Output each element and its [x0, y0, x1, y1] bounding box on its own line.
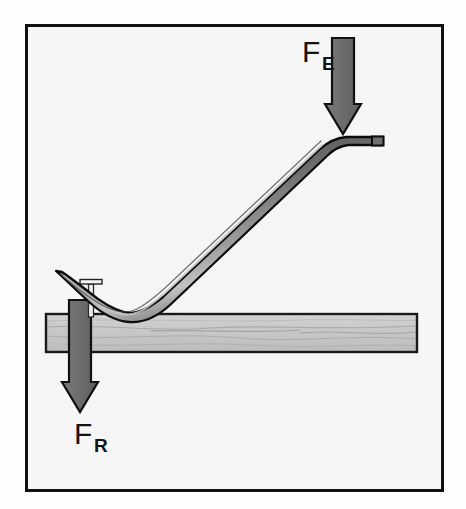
- resistance-force-label-base: F: [74, 417, 92, 450]
- figure-root: F E F R: [0, 0, 466, 509]
- effort-force-label-base: F: [302, 35, 320, 68]
- wooden-board: [46, 314, 417, 352]
- lever-force-diagram: F E F R: [0, 0, 466, 509]
- crowbar-handle-tip: [372, 137, 384, 146]
- effort-force-label-subscript: E: [322, 53, 335, 74]
- nail-head: [80, 280, 102, 285]
- resistance-force-label-subscript: R: [94, 435, 108, 456]
